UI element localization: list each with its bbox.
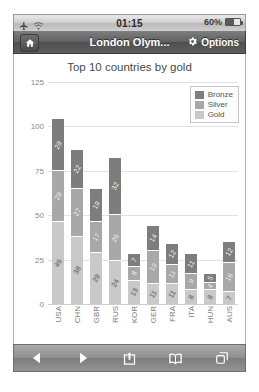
bar-value-label: 11 — [186, 259, 196, 269]
chart-bars: 2929462227381917293226247813141911121111… — [48, 82, 238, 304]
bar-segment-silver: 26 — [109, 215, 121, 261]
share-icon — [122, 351, 137, 366]
x-axis-label: GER — [148, 306, 157, 323]
bar-value-label: 24 — [110, 278, 120, 288]
bar-group: 7813 — [124, 82, 143, 304]
chart-title: Top 10 countries by gold — [14, 61, 245, 73]
x-axis-label: KOR — [129, 306, 138, 323]
gear-icon — [187, 36, 198, 49]
bar-segment-silver: 16 — [223, 263, 235, 291]
bar-segment-gold: 24 — [109, 261, 121, 304]
x-axis-label: GBR — [91, 306, 100, 323]
bar-group: 1198 — [181, 82, 200, 304]
x-axis-label: FRA — [167, 306, 176, 322]
bar-segment-bronze: 14 — [147, 226, 159, 251]
bar-value-label: 7 — [129, 257, 137, 264]
x-axis-tick: HUN — [200, 304, 219, 344]
x-axis-tick: USA — [48, 304, 67, 344]
home-button[interactable] — [20, 34, 39, 52]
stacked-bar: 1198 — [185, 254, 197, 304]
bar-group: 548 — [200, 82, 219, 304]
x-axis-label: RUS — [110, 306, 119, 323]
chart-x-axis-labels: USACHNGBRRUSKORGERFRAITAHUNAUS — [48, 304, 238, 344]
bar-value-label: 8 — [205, 293, 213, 300]
stacked-bar: 141911 — [147, 226, 159, 304]
forward-button[interactable] — [68, 347, 98, 369]
bar-segment-silver: 17 — [90, 222, 102, 252]
tabs-button[interactable] — [207, 347, 237, 369]
stacked-bar: 292946 — [52, 119, 64, 304]
bar-value-label: 13 — [129, 287, 139, 297]
bar-group: 191729 — [86, 82, 105, 304]
x-axis-tick: FRA — [162, 304, 181, 344]
bar-segment-bronze: 7 — [128, 254, 140, 266]
bar-value-label: 8 — [186, 293, 194, 300]
bar-segment-gold: 38 — [71, 237, 83, 304]
bar-segment-bronze: 32 — [109, 158, 121, 215]
bar-segment-bronze: 5 — [204, 274, 216, 283]
bar-value-label: 4 — [205, 282, 213, 289]
x-axis-label: ITA — [186, 306, 195, 318]
bar-value-label: 5 — [205, 274, 213, 281]
bar-segment-silver: 9 — [185, 274, 197, 290]
ytick-125: 125 — [31, 78, 44, 87]
browser-toolbar — [13, 344, 246, 372]
bookmarks-button[interactable] — [161, 347, 191, 369]
stacked-bar: 548 — [204, 274, 216, 304]
bar-value-label: 16 — [224, 272, 234, 282]
bar-segment-bronze: 12 — [166, 244, 178, 265]
x-axis-label: CHN — [72, 306, 81, 323]
bar-segment-gold: 7 — [223, 292, 235, 304]
bar-group: 222738 — [67, 82, 86, 304]
bar-value-label: 12 — [224, 247, 234, 257]
nav-bar: London Olym... Options — [13, 31, 246, 54]
bar-segment-gold: 46 — [52, 222, 64, 304]
bar-value-label: 26 — [110, 233, 120, 243]
options-button[interactable]: Options — [187, 34, 239, 50]
bar-value-label: 29 — [53, 139, 63, 149]
bar-segment-silver: 19 — [147, 251, 159, 285]
bar-value-label: 32 — [110, 181, 120, 191]
bar-value-label: 9 — [186, 278, 194, 285]
forward-arrow-icon — [76, 351, 90, 365]
web-content: Top 10 countries by gold Bronze Silver G… — [13, 54, 246, 344]
stacked-bar: 121111 — [166, 244, 178, 304]
stacked-bar: 191729 — [90, 189, 102, 304]
bar-value-label: 14 — [148, 233, 158, 243]
bar-value-label: 12 — [167, 249, 177, 259]
stacked-bar: 12167 — [223, 242, 235, 304]
share-button[interactable] — [114, 347, 144, 369]
bar-group: 292946 — [48, 82, 67, 304]
x-axis-tick: AUS — [219, 304, 238, 344]
x-axis-label: HUN — [205, 306, 214, 323]
bar-segment-gold: 11 — [166, 284, 178, 304]
bar-segment-silver: 27 — [71, 189, 83, 237]
bar-segment-silver: 29 — [52, 171, 64, 223]
bar-value-label: 11 — [148, 289, 158, 299]
bar-segment-bronze: 22 — [71, 150, 83, 189]
bar-value-label: 38 — [72, 265, 82, 275]
bar-segment-gold: 8 — [185, 290, 197, 304]
bar-segment-bronze: 29 — [52, 119, 64, 171]
x-axis-tick: RUS — [105, 304, 124, 344]
bar-value-label: 11 — [167, 269, 177, 279]
bar-segment-bronze: 11 — [185, 254, 197, 274]
bar-value-label: 46 — [53, 258, 63, 268]
x-axis-label: AUS — [224, 306, 233, 322]
bar-group: 141911 — [143, 82, 162, 304]
bar-segment-silver: 4 — [204, 283, 216, 290]
bar-value-label: 7 — [224, 294, 232, 301]
back-button[interactable] — [22, 347, 52, 369]
x-axis-tick: CHN — [67, 304, 86, 344]
status-bar-right: 60% — [204, 17, 241, 27]
bar-value-label: 22 — [72, 163, 82, 173]
x-axis-tick: GER — [143, 304, 162, 344]
battery-percent-label: 60% — [204, 17, 222, 27]
x-axis-label: USA — [53, 306, 62, 322]
home-icon — [25, 38, 35, 48]
battery-icon — [225, 18, 241, 26]
bar-segment-gold: 13 — [128, 281, 140, 304]
bar-segment-gold: 29 — [90, 253, 102, 305]
x-axis-tick: ITA — [181, 304, 200, 344]
status-bar: 01:15 60% — [13, 14, 246, 31]
